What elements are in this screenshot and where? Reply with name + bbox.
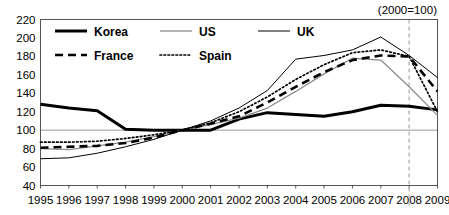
series-line-france	[41, 55, 438, 147]
x-tick-label: 2002	[226, 194, 252, 206]
x-tick-label: 2006	[340, 194, 366, 206]
legend-label-uk: UK	[297, 25, 315, 39]
x-tick-label: 2009	[425, 194, 449, 206]
x-axis-tick-labels: 1995199619971998199920002001200220032004…	[28, 194, 449, 206]
legend-label-us: US	[199, 25, 216, 39]
y-axis-tick-labels: 406080100120140160180200220	[16, 14, 35, 192]
x-tick-label: 1998	[113, 194, 139, 206]
legend-label-france: France	[94, 49, 134, 63]
x-tick-label: 1999	[141, 194, 167, 206]
y-tick-label: 60	[23, 161, 36, 173]
base-year-annotation: (2000=100)	[378, 4, 437, 16]
x-tick-label: 1997	[84, 194, 110, 206]
y-tick-label: 220	[16, 14, 35, 26]
x-tick-label: 2007	[368, 194, 394, 206]
series-line-spain	[41, 50, 438, 142]
x-tick-label: 1996	[56, 194, 82, 206]
y-tick-label: 40	[23, 180, 36, 192]
plot-area-frame	[41, 20, 438, 186]
x-tick-label: 1995	[28, 194, 54, 206]
line-chart-container: (2000=100) 406080100120140160180200220 1…	[0, 0, 449, 215]
y-tick-label: 180	[16, 50, 35, 62]
x-tick-label: 2004	[283, 194, 309, 206]
legend-label-korea: Korea	[94, 25, 128, 39]
y-tick-label: 140	[16, 87, 35, 99]
chart-legend: KoreaUSUKFranceSpain	[55, 25, 315, 63]
legend-label-spain: Spain	[199, 49, 232, 63]
series-line-us	[41, 58, 438, 149]
x-tick-label: 2005	[311, 194, 337, 206]
x-tick-label: 2003	[255, 194, 281, 206]
y-tick-label: 160	[16, 69, 35, 81]
y-tick-label: 100	[16, 124, 35, 136]
x-tick-label: 2000	[169, 194, 195, 206]
x-tick-label: 2001	[198, 194, 224, 206]
y-tick-label: 80	[23, 143, 36, 155]
y-tick-label: 200	[16, 32, 35, 44]
annotation-group: (2000=100)	[378, 4, 437, 16]
y-tick-label: 120	[16, 106, 35, 118]
chart-canvas: (2000=100) 406080100120140160180200220 1…	[0, 0, 449, 215]
